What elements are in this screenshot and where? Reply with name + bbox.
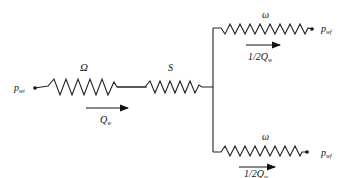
main-flow-label: Qw — [100, 114, 111, 126]
resistor-omega-top-label: ω — [262, 9, 269, 20]
outlet-bottom-pressure-label: pwf — [320, 147, 333, 159]
top-flow-label: 1/2Qw — [248, 51, 272, 63]
resistor-omega-top — [213, 24, 312, 34]
resistor-omega-bottom-label: ω — [262, 131, 269, 142]
outlet-bottom-node — [305, 150, 309, 154]
resistor-s — [117, 81, 213, 93]
resistor-network-diagram: pwi Ω S Qw ω pwf 1/2Qw ω pwf 1/2Qw — [0, 0, 348, 178]
resistor-omega-bottom — [213, 146, 306, 156]
outlet-top-pressure-label: pwf — [320, 23, 333, 35]
inlet-pressure-label: pwi — [13, 82, 25, 94]
bottom-flow-label: 1/2Qw — [244, 168, 268, 178]
resistor-s-label: S — [168, 62, 173, 73]
resistor-omega-main-label: Ω — [80, 61, 88, 73]
outlet-top-node — [310, 27, 314, 31]
